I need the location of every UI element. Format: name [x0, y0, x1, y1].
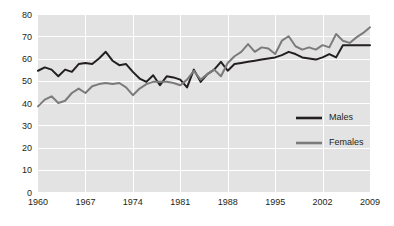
- y-axis-tick-label: 50: [22, 76, 32, 86]
- y-axis-tick-label: 0: [27, 188, 32, 198]
- x-axis-tick-label: 2009: [360, 197, 380, 207]
- x-axis-tick-label: 1967: [75, 197, 95, 207]
- x-axis-tick-labels: 19601967197419811988199520022009: [28, 197, 380, 207]
- legend-label-females: Females: [329, 137, 364, 147]
- x-axis-tick-label: 1995: [265, 197, 285, 207]
- y-axis-tick-label: 40: [22, 99, 32, 109]
- x-axis-tick-label: 1974: [123, 197, 143, 207]
- legend-label-males: Males: [329, 112, 354, 122]
- x-axis-tick-label: 1988: [218, 197, 238, 207]
- y-axis-tick-label: 30: [22, 121, 32, 131]
- y-axis-tick-label: 70: [22, 32, 32, 42]
- x-axis-tick-label: 1960: [28, 197, 48, 207]
- x-axis-tick-label: 2002: [313, 197, 333, 207]
- y-axis-tick-label: 10: [22, 165, 32, 175]
- chart-canvas: 01020304050607080 1960196719741981198819…: [0, 0, 394, 226]
- y-axis-tick-label: 60: [22, 54, 32, 64]
- y-axis-tick-labels: 01020304050607080: [22, 10, 32, 198]
- y-axis-tick-label: 20: [22, 143, 32, 153]
- line-chart: 01020304050607080 1960196719741981198819…: [0, 0, 394, 226]
- y-axis-tick-label: 80: [22, 10, 32, 20]
- x-axis-tick-label: 1981: [170, 197, 190, 207]
